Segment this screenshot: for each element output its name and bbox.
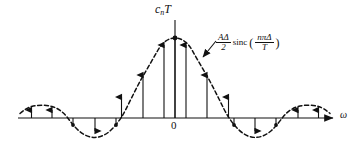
close-paren: ) bbox=[276, 37, 280, 49]
figure-canvas bbox=[0, 0, 359, 149]
stem-group-right-outer bbox=[298, 110, 319, 118]
stem-group-left-outer bbox=[32, 110, 53, 118]
envelope-formula-annotation: AΔ 2 sinc ( nπΔ T ) bbox=[216, 33, 280, 53]
sinc-arg-denominator: T bbox=[260, 43, 269, 52]
stem-group-right-negative bbox=[232, 118, 278, 131]
amplitude-fraction: AΔ 2 bbox=[216, 33, 231, 53]
stem-group-main-lobe bbox=[122, 36, 229, 118]
amplitude-denominator: 2 bbox=[219, 43, 228, 52]
y-axis-label: cnT bbox=[155, 3, 171, 17]
stem-group-left-negative bbox=[71, 118, 118, 131]
sinc-function-name: sinc bbox=[233, 38, 248, 47]
open-paren: ( bbox=[249, 37, 253, 49]
figure-sinc-line-spectrum: cnT 0 ω AΔ 2 sinc ( nπΔ T ) bbox=[0, 0, 359, 149]
x-axis-label-omega: ω bbox=[340, 110, 347, 120]
sinc-argument-fraction: nπΔ T bbox=[255, 33, 273, 53]
y-axis-label-T: T bbox=[164, 2, 171, 16]
origin-label: 0 bbox=[171, 120, 177, 131]
annotation-leader-line bbox=[203, 41, 216, 57]
